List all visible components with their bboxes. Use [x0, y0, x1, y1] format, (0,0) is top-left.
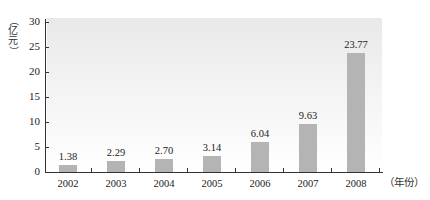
bar-chart: （亿元） 051015202530 1.3820022.2920032.7020…: [0, 0, 430, 200]
x-tick-label: 2007: [288, 178, 328, 189]
y-axis-label: （亿元）: [7, 16, 19, 56]
y-tick-label: 0: [20, 166, 40, 177]
x-tick-label: 2008: [336, 178, 376, 189]
bar-value-label: 3.14: [192, 142, 232, 153]
y-tick-label: 30: [20, 16, 40, 27]
y-tick-label: 10: [20, 116, 40, 127]
bar-value-label: 9.63: [288, 110, 328, 121]
bar-2005: [203, 156, 221, 172]
x-tick-label: 2002: [48, 178, 88, 189]
y-tick-label: 20: [20, 66, 40, 77]
bar-2002: [59, 165, 77, 172]
x-tick-label: 2004: [144, 178, 184, 189]
y-axis-line: [45, 19, 46, 173]
x-tick-label: 2006: [240, 178, 280, 189]
y-tick-label: 25: [20, 41, 40, 52]
bar-2008: [347, 53, 365, 172]
bar-value-label: 6.04: [240, 128, 280, 139]
bar-2003: [107, 161, 125, 172]
y-axis-label-char: （: [8, 15, 18, 27]
bar-value-label: 23.77: [336, 39, 376, 50]
y-axis-label-char: ）: [8, 45, 18, 57]
x-axis-label: （年份）: [384, 177, 424, 189]
y-tick-label: 15: [20, 91, 40, 102]
bar-value-label: 2.29: [96, 147, 136, 158]
bar-2007: [299, 124, 317, 172]
bar-2004: [155, 159, 173, 172]
y-tick-label: 5: [20, 141, 40, 152]
x-tick-label: 2005: [192, 178, 232, 189]
bar-2006: [251, 142, 269, 172]
x-tick-label: 2003: [96, 178, 136, 189]
x-axis-line: [45, 172, 383, 173]
bar-value-label: 2.70: [144, 145, 184, 156]
bar-value-label: 1.38: [48, 151, 88, 162]
